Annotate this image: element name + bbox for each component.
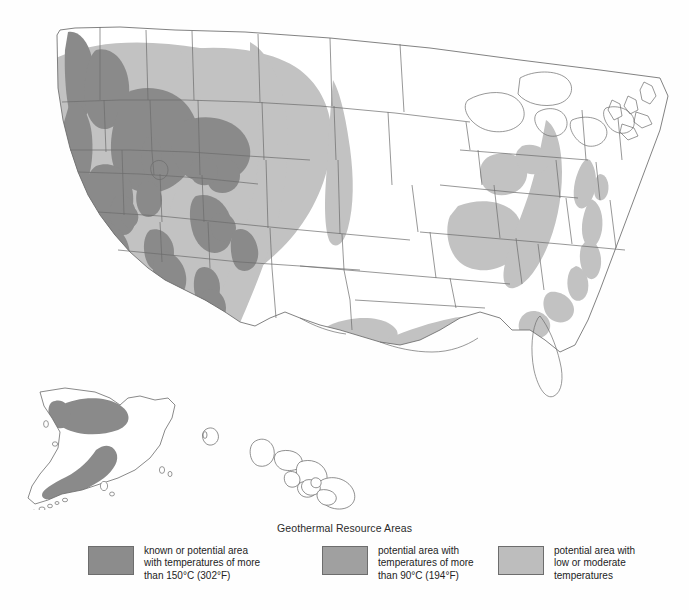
legend-label-high-temperature: known or potential area with temperature… xyxy=(144,545,260,582)
legend-label-low-moderate-temperature: potential area with low or moderate temp… xyxy=(554,545,635,582)
legend-label-moderate-temperature: potential area with temperatures of more… xyxy=(378,545,474,582)
map-legend: Geothermal Resource Areas known or poten… xyxy=(0,510,689,610)
legend-swatch-high-temperature xyxy=(88,546,134,575)
legend-item-low-moderate-temperature: potential area with low or moderate temp… xyxy=(498,545,635,582)
legend-swatch-moderate-temperature xyxy=(322,546,368,575)
hawaii-inset xyxy=(202,428,354,509)
legend-item-high-temperature: known or potential area with temperature… xyxy=(88,545,260,582)
alaska-inset xyxy=(19,388,175,510)
map-svg xyxy=(0,0,689,510)
geothermal-resource-map xyxy=(0,0,689,510)
map-page: Geothermal Resource Areas known or poten… xyxy=(0,0,689,610)
legend-title: Geothermal Resource Areas xyxy=(0,522,689,534)
legend-swatch-low-moderate-temperature xyxy=(498,546,544,575)
legend-item-moderate-temperature: potential area with temperatures of more… xyxy=(322,545,474,582)
